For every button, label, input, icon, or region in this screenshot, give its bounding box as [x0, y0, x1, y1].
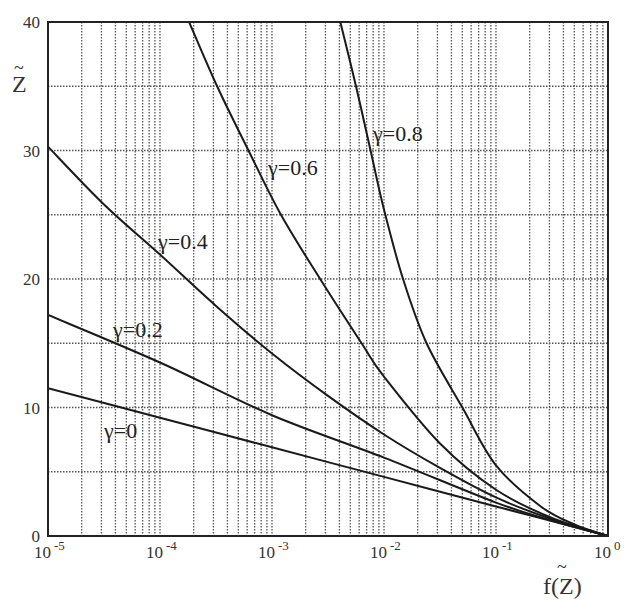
curve-label: γ=0.4	[157, 229, 208, 254]
y-tick-label: 20	[23, 270, 40, 289]
y-tick-label: 30	[23, 142, 40, 161]
curve-label: γ=0.6	[267, 155, 318, 180]
x-axis-tick-labels: 10-510-410-310-210-1100	[34, 538, 621, 562]
y-tick-label: 10	[23, 399, 40, 418]
curve-label: γ=0	[103, 418, 137, 443]
gridlines	[48, 22, 608, 536]
curve-0	[48, 388, 608, 536]
curve-0.6	[189, 22, 608, 536]
y-axis-tilde: ~	[14, 58, 24, 78]
chart: 010203040 10-510-410-310-210-1100 γ=0γ=0…	[0, 0, 639, 609]
y-tick-label: 40	[23, 13, 40, 32]
curve-label: γ=0.8	[372, 121, 423, 146]
x-tick-label: 100	[594, 538, 621, 562]
x-tick-label: 10-3	[258, 538, 289, 562]
x-axis-title: f(Z) ~	[543, 557, 582, 599]
curve-label: γ=0.2	[112, 317, 163, 342]
y-axis-title: Z ~	[12, 58, 27, 97]
x-tick-label: 10-4	[146, 538, 177, 562]
x-axis-tilde: ~	[557, 557, 567, 577]
x-tick-label: 10-2	[370, 538, 401, 562]
x-tick-label: 10-1	[482, 538, 513, 562]
